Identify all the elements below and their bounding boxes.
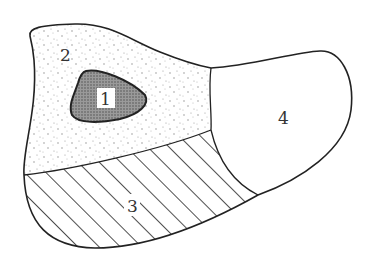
label-1: 1	[100, 89, 111, 109]
zone-diagram: 1 2 3 4	[0, 0, 373, 274]
label-2: 2	[60, 45, 71, 65]
label-4: 4	[278, 108, 289, 128]
label-3: 3	[127, 196, 138, 216]
